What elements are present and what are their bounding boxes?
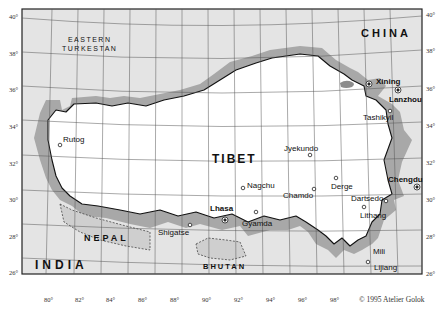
lon-tick: 88° <box>170 296 179 303</box>
lon-tick: 98° <box>330 296 339 303</box>
region-label-line1: EASTERN <box>62 35 117 44</box>
lat-tick-left: 32° <box>9 160 18 167</box>
region-label-tibet: TIBET <box>212 152 257 166</box>
lat-tick-right: 30° <box>426 196 435 203</box>
city-label-lhasa: Lhasa <box>210 204 233 213</box>
lon-tick: 84° <box>106 296 115 303</box>
region-label-bhutan: BHUTAN <box>203 262 246 271</box>
region-label-eastern-turkestan: EASTERN TURKESTAN <box>62 35 117 53</box>
lat-tick-left: 40° <box>9 13 18 20</box>
lat-tick-right: 36° <box>426 85 435 92</box>
lat-tick-right: 34° <box>426 122 435 129</box>
city-label-lijiang: Lijiang <box>374 263 397 272</box>
city-label-mili: Mili <box>373 247 385 256</box>
lat-tick-left: 36° <box>9 86 18 93</box>
lat-tick-left: 38° <box>9 50 18 57</box>
city-label-lanzhou: Lanzhou <box>389 95 422 104</box>
city-label-derge: Derge <box>331 182 353 191</box>
copyright-notice: © 1995 Atelier Golok <box>359 295 424 304</box>
region-label-line2: TURKESTAN <box>62 44 117 53</box>
lon-tick: 94° <box>266 296 275 303</box>
lat-tick-right: 32° <box>426 159 435 166</box>
city-label-lithang: Lithang <box>360 211 386 220</box>
lon-tick: 92° <box>234 296 243 303</box>
lon-tick: 82° <box>75 296 84 303</box>
city-label-rutog: Rutog <box>63 135 84 144</box>
city-label-chengdu: Chengdu <box>388 175 423 184</box>
city-label-nagchu: Nagchu <box>247 181 275 190</box>
lat-tick-right: 38° <box>426 47 435 54</box>
city-label-gyamda: Gyamda <box>242 219 272 228</box>
region-label-nepal: NEPAL <box>84 233 129 243</box>
city-label-xining: Xining <box>376 77 400 86</box>
city-label-dartsedo: Dartsedo <box>351 194 383 203</box>
lat-tick-right: 28° <box>426 233 435 240</box>
city-label-chamdo: Chamdo <box>283 191 313 200</box>
lat-tick-right: 40° <box>426 11 435 18</box>
lon-tick: 90° <box>202 296 211 303</box>
lon-tick: 86° <box>138 296 147 303</box>
lat-tick-left: 30° <box>9 196 18 203</box>
region-label-china: CHINA <box>361 27 411 39</box>
lat-tick-left: 28° <box>9 233 18 240</box>
city-label-shigatse: Shigatse <box>158 228 189 237</box>
lon-tick: 80° <box>44 296 53 303</box>
city-label-tashikyil: Tashikyil <box>363 113 393 122</box>
region-label-india: INDIA <box>35 258 88 272</box>
lon-tick: 96° <box>298 296 307 303</box>
lat-tick-right: 26° <box>426 270 435 277</box>
city-label-jyekundo: Jyekundo <box>284 144 318 153</box>
lat-tick-left: 26° <box>9 269 18 276</box>
lat-tick-left: 34° <box>9 123 18 130</box>
